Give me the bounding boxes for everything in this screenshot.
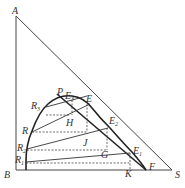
label-A: A xyxy=(11,5,19,16)
tie-line-R1-E1 xyxy=(26,153,130,162)
label-E1: E1 xyxy=(132,145,142,157)
binodal-curve xyxy=(26,96,146,170)
label-F: F xyxy=(148,161,156,172)
label-E: E xyxy=(85,93,92,104)
label-H: H xyxy=(65,117,74,128)
label-R: R xyxy=(21,125,28,136)
label-E2: E2 xyxy=(108,115,118,127)
tie-line-R-E xyxy=(32,104,90,132)
label-B: B xyxy=(4,169,10,180)
label-J: J xyxy=(83,137,88,148)
label-S: S xyxy=(175,169,180,180)
ternary-diagram: A B S P E3 E E2 E1 R3 R R2 R1 H J G K F xyxy=(0,0,185,188)
edge-AS xyxy=(16,16,172,170)
label-P: P xyxy=(56,86,63,97)
label-R3: R3 xyxy=(30,100,40,112)
label-K: K xyxy=(124,168,133,179)
label-G: G xyxy=(101,149,108,160)
label-E3: E3 xyxy=(64,90,74,102)
label-R2: R2 xyxy=(16,142,26,154)
label-R1: R1 xyxy=(14,154,24,166)
tie-line-R2-E2 xyxy=(27,128,108,149)
